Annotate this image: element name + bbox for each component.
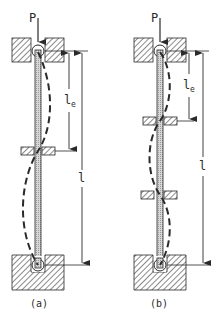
effective-length-subscript: e (190, 85, 195, 94)
figure-a: P l e l (a) (12, 11, 88, 309)
load-label: P (29, 11, 36, 25)
caption-a: (a) (30, 298, 48, 309)
mid-restraint-right (42, 147, 55, 155)
column (35, 50, 41, 268)
effective-length-subscript: e (71, 100, 76, 109)
mid-restraint-left (21, 147, 34, 155)
mid-restraint-2-left (141, 191, 154, 199)
load-label: P (151, 11, 158, 25)
mid-restraint-1-left (143, 117, 156, 125)
top-support-right (167, 38, 186, 62)
top-support-right (45, 38, 64, 62)
mid-restraint-2-right (164, 191, 177, 199)
column (157, 50, 163, 268)
top-support-left (12, 38, 31, 62)
total-length-label: l (199, 159, 206, 173)
column-buckling-diagram: P l e l (a) P (0, 0, 219, 325)
total-length-label: l (78, 171, 85, 185)
top-support-left (134, 38, 153, 62)
figure-b: P l e l (b) (134, 11, 209, 309)
caption-b: (b) (150, 298, 168, 309)
mid-restraint-1-right (164, 117, 177, 125)
